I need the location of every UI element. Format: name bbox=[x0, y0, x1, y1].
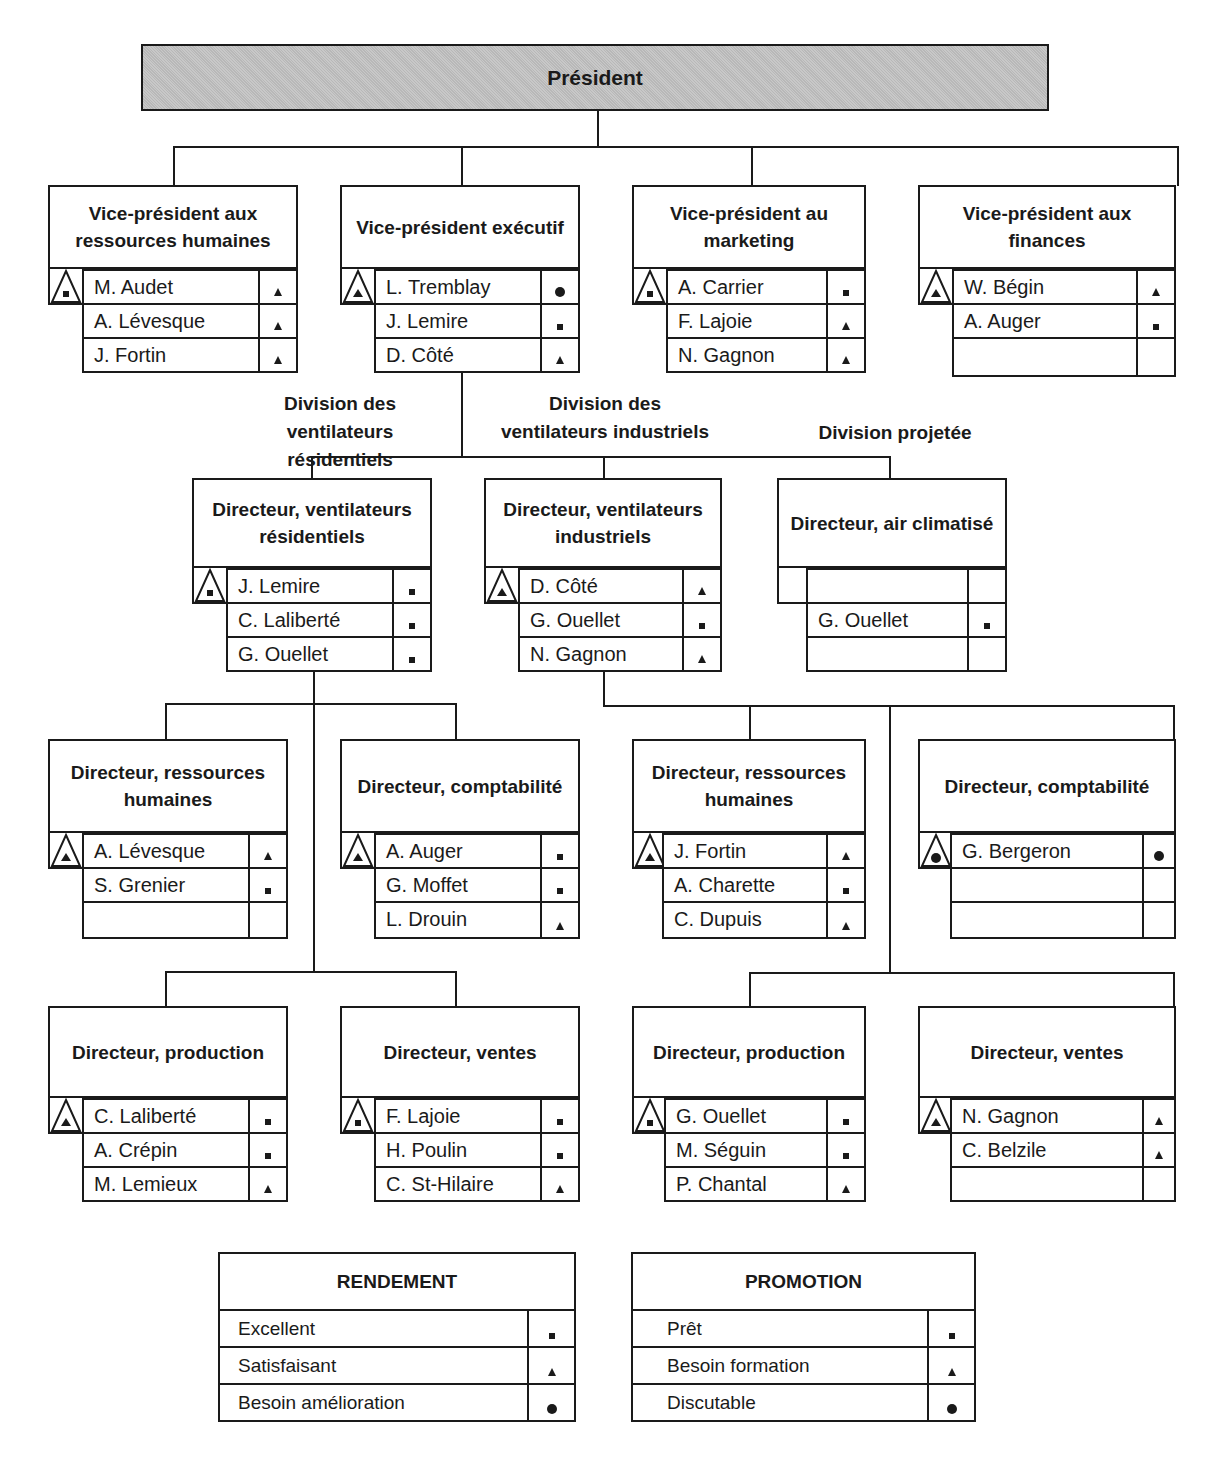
triangle-outline-triangle-icon bbox=[920, 269, 952, 303]
node-title: Directeur, ressources humaines bbox=[48, 739, 288, 833]
position-rating-flag bbox=[918, 1098, 954, 1134]
triangle-outline-square-icon bbox=[634, 269, 666, 303]
person-row: J. Lemire bbox=[374, 305, 580, 339]
legend-title: PROMOTION bbox=[631, 1252, 976, 1311]
node-vp-marketing: Vice-président au marketing A. Carrier F… bbox=[632, 185, 866, 377]
connector bbox=[165, 703, 457, 705]
person-row: C. St-Hilaire bbox=[374, 1168, 580, 1202]
legend-row: Prêt bbox=[631, 1311, 976, 1348]
node-title: Vice-président exécutif bbox=[340, 185, 580, 269]
connector bbox=[603, 668, 605, 706]
square-icon bbox=[967, 604, 1005, 636]
triangle-icon bbox=[258, 339, 296, 371]
president-label: Président bbox=[547, 66, 643, 90]
circle-icon bbox=[1142, 835, 1174, 867]
division-projected-label: Division projetée bbox=[790, 419, 1000, 447]
person-row: L. Tremblay bbox=[374, 269, 580, 305]
node-title: Vice-président aux ressources humaines bbox=[48, 185, 298, 269]
empty-rating-cell bbox=[1142, 869, 1174, 901]
person-row: G. Moffet bbox=[374, 869, 580, 903]
node-title: Directeur, production bbox=[632, 1006, 866, 1098]
triangle-outline-triangle-icon bbox=[342, 269, 374, 303]
triangle-outline-square-icon bbox=[194, 568, 226, 602]
legend-row: Besoin amélioration bbox=[218, 1385, 576, 1422]
triangle-icon bbox=[258, 271, 296, 303]
person-row: D. Côté bbox=[374, 339, 580, 373]
connector bbox=[165, 703, 167, 739]
person-row: C. Laliberté bbox=[82, 1098, 288, 1134]
position-rating-flag bbox=[48, 833, 84, 869]
connector bbox=[1173, 705, 1175, 739]
square-icon bbox=[540, 1100, 578, 1132]
node-title: Vice-président au marketing bbox=[632, 185, 866, 269]
square-icon bbox=[1136, 305, 1174, 337]
person-row: G. Ouellet bbox=[226, 638, 432, 672]
person-row: G. Ouellet bbox=[806, 604, 1007, 638]
empty-rating-cell bbox=[1142, 1168, 1174, 1200]
node-title: Directeur, ventilateurs industriels bbox=[484, 478, 722, 568]
person-row: A. Charette bbox=[662, 869, 866, 903]
triangle-outline-triangle-icon bbox=[486, 568, 518, 602]
legend-promotion: PROMOTION Prêt Besoin formation Discutab… bbox=[631, 1252, 976, 1422]
square-icon bbox=[826, 1100, 864, 1132]
empty-rating-cell bbox=[967, 638, 1005, 670]
node-residential-accounting-director: Directeur, comptabilité A. Auger G. Moff… bbox=[340, 739, 580, 939]
node-title: Directeur, ressources humaines bbox=[632, 739, 866, 833]
position-rating-flag bbox=[340, 269, 376, 305]
connector bbox=[461, 146, 463, 186]
person-row: J. Fortin bbox=[82, 339, 298, 373]
node-industrial-sales-director: Directeur, ventes N. Gagnon C. Belzile bbox=[918, 1006, 1176, 1202]
triangle-icon bbox=[258, 305, 296, 337]
node-director-air-conditioning: Directeur, air climatisé G. Ouellet bbox=[777, 478, 1007, 670]
person-row bbox=[806, 568, 1007, 604]
position-rating-flag bbox=[48, 1098, 84, 1134]
triangle-icon bbox=[527, 1348, 574, 1383]
node-industrial-hr-director: Directeur, ressources humaines J. Fortin… bbox=[632, 739, 866, 939]
person-row: S. Grenier bbox=[82, 869, 288, 903]
person-row: N. Gagnon bbox=[950, 1098, 1176, 1134]
triangle-icon bbox=[540, 339, 578, 371]
square-icon bbox=[826, 869, 864, 901]
node-vp-human-resources: Vice-président aux ressources humaines M… bbox=[48, 185, 298, 377]
person-row: G. Ouellet bbox=[518, 604, 722, 638]
square-icon bbox=[540, 1134, 578, 1166]
person-row bbox=[950, 869, 1176, 903]
connector bbox=[889, 456, 891, 480]
square-icon bbox=[682, 604, 720, 636]
position-rating-flag bbox=[918, 269, 954, 305]
square-icon bbox=[392, 604, 430, 636]
connector bbox=[751, 146, 753, 186]
person-row: F. Lajoie bbox=[666, 305, 866, 339]
node-title: Directeur, comptabilité bbox=[340, 739, 580, 833]
person-row bbox=[950, 903, 1176, 939]
empty-rating-cell bbox=[248, 903, 286, 937]
triangle-icon bbox=[927, 1348, 974, 1383]
node-title: Directeur, ventes bbox=[340, 1006, 580, 1098]
triangle-icon bbox=[826, 1168, 864, 1200]
triangle-icon bbox=[540, 903, 578, 937]
square-icon bbox=[927, 1311, 974, 1346]
person-row: A. Auger bbox=[952, 305, 1176, 339]
square-icon bbox=[248, 869, 286, 901]
square-icon bbox=[540, 305, 578, 337]
connector bbox=[749, 972, 1175, 974]
connector bbox=[173, 146, 175, 186]
square-icon bbox=[248, 1100, 286, 1132]
division-industrial-label: Division des ventilateurs industriels bbox=[474, 390, 736, 446]
division-residential-label: Division des ventilateurs résidentiels bbox=[235, 390, 445, 474]
person-row: N. Gagnon bbox=[666, 339, 866, 373]
person-row: H. Poulin bbox=[374, 1134, 580, 1168]
legend-title: RENDEMENT bbox=[218, 1252, 576, 1311]
triangle-outline-square-icon bbox=[50, 269, 82, 303]
person-row: M. Audet bbox=[82, 269, 298, 305]
person-row: G. Ouellet bbox=[664, 1098, 866, 1134]
president-box: Président bbox=[141, 44, 1049, 111]
legend-rendement: RENDEMENT Excellent Satisfaisant Besoin … bbox=[218, 1252, 576, 1422]
empty-rating-cell bbox=[1142, 903, 1174, 937]
node-title: Directeur, production bbox=[48, 1006, 288, 1098]
node-director-industrial-fans: Directeur, ventilateurs industriels D. C… bbox=[484, 478, 722, 670]
circle-icon bbox=[540, 271, 578, 303]
position-rating-flag bbox=[340, 833, 376, 869]
person-row: C. Laliberté bbox=[226, 604, 432, 638]
person-row bbox=[82, 903, 288, 939]
